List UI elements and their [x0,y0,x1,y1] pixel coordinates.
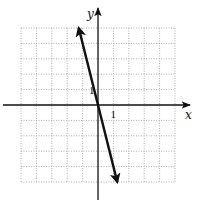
x-axis-label: x [185,108,192,122]
tick-label-x-1: 1 [110,108,116,120]
y-axis-label: y [86,7,94,21]
coordinate-plane: x y 11 [0,0,202,203]
